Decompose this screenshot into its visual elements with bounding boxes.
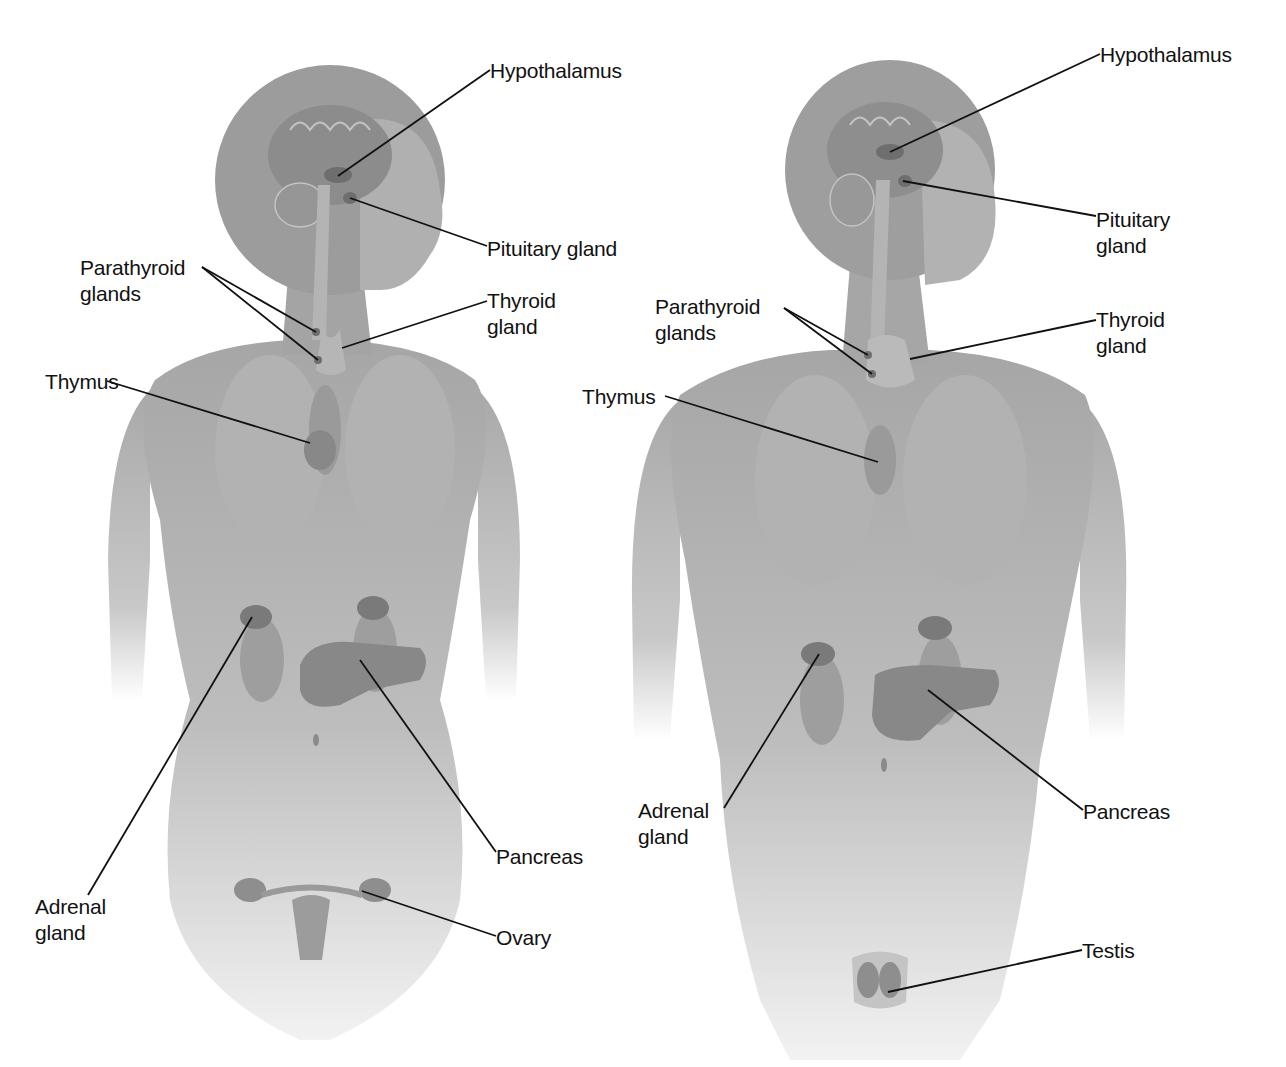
label-female-ovary: Ovary	[496, 925, 551, 951]
label-male-pituitary-gland: Pituitary gland	[1096, 207, 1170, 259]
label-female-pancreas: Pancreas	[496, 844, 583, 870]
endocrine-diagram: Hypothalamus Pituitary gland Parathyroid…	[0, 0, 1286, 1067]
label-female-pituitary-gland: Pituitary gland	[487, 236, 617, 262]
label-male-testis: Testis	[1082, 938, 1134, 964]
label-female-adrenal-gland: Adrenal gland	[35, 894, 106, 946]
label-male-thymus: Thymus	[582, 384, 655, 410]
female-figure	[108, 65, 520, 1040]
label-female-hypothalamus: Hypothalamus	[490, 58, 622, 84]
male-figure	[632, 60, 1126, 1060]
label-male-parathyroid-glands: Parathyroid glands	[655, 294, 760, 346]
label-female-thymus: Thymus	[45, 369, 118, 395]
label-male-pancreas: Pancreas	[1083, 799, 1170, 825]
label-male-adrenal-gland: Adrenal gland	[638, 798, 709, 850]
label-male-hypothalamus: Hypothalamus	[1100, 42, 1232, 68]
label-male-thyroid-gland: Thyroid gland	[1096, 307, 1165, 359]
anatomy-illustration	[0, 0, 1286, 1067]
label-female-thyroid-gland: Thyroid gland	[487, 288, 556, 340]
leader-line-male-thyroid	[910, 320, 1096, 359]
label-female-parathyroid-glands: Parathyroid glands	[80, 255, 185, 307]
